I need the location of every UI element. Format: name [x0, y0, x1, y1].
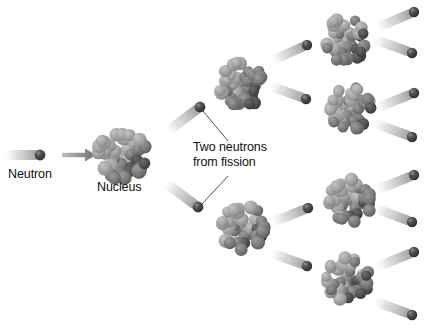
neutron-gen4-a1	[409, 7, 419, 17]
neutron-gen4-d2	[407, 310, 417, 320]
fission-label-line-2: from fission	[193, 155, 256, 169]
neutron-gen3-d	[302, 261, 312, 271]
two-neutrons-from-fission-label: Two neutrons from fission	[193, 140, 285, 171]
neutron-gen2-lower	[193, 202, 204, 213]
neutron-gen3-a	[302, 40, 312, 50]
neutron-gen4-c1	[409, 170, 419, 180]
neutron-incident-trail	[2, 150, 40, 160]
leader-to-lower-neutron	[202, 176, 228, 204]
nucleus-generation-1	[92, 128, 152, 185]
fission-label-line-1: Two neutrons	[193, 140, 267, 154]
neutron-label: Neutron	[8, 167, 52, 182]
nucleus-generation-2-upper	[214, 57, 267, 111]
leader-to-upper-neutron	[203, 111, 228, 141]
nucleus-generation-3-d	[321, 251, 374, 306]
neutron-gen4-d1	[409, 247, 419, 257]
neutron-gen2-upper	[195, 102, 206, 113]
incoming-direction-arrow	[62, 149, 96, 162]
nucleus-generation-2-lower	[216, 200, 271, 256]
nucleus-generation-3-b	[324, 82, 376, 134]
nucleus-generation-3-c	[323, 173, 376, 228]
neutron-incident	[35, 150, 46, 161]
nucleus-generation-3-a	[320, 13, 370, 66]
nucleus-label: Nucleus	[97, 180, 141, 195]
arrow-group	[62, 149, 96, 162]
fission-chain-reaction-diagram: Neutron Nucleus Two neutrons from fissio…	[0, 0, 432, 333]
neutron-gen3-b	[301, 94, 311, 104]
neutron-gen4-b2	[407, 132, 417, 142]
neutron-gen4-c2	[407, 217, 417, 227]
neutron-gen3-c	[303, 203, 313, 213]
neutron-gen4-a2	[407, 48, 417, 58]
neutron-gen4-b1	[409, 88, 419, 98]
